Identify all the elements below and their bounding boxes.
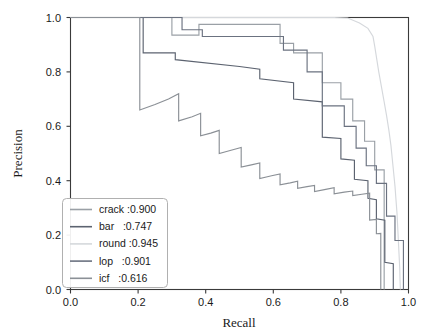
legend-label-lop: lop :0.901: [99, 255, 151, 267]
x-tick-label: 0.4: [198, 296, 213, 308]
legend-label-round: round :0.945: [99, 237, 158, 249]
x-tick-label: 0.6: [266, 296, 281, 308]
y-tick-label: 0.6: [46, 120, 61, 132]
y-tick-label: 0.4: [46, 175, 61, 187]
legend-label-icf: icf :0.616: [99, 272, 148, 284]
y-tick-label: 0.2: [46, 229, 61, 241]
x-tick-label: 0.8: [333, 296, 348, 308]
x-tick-label: 0.0: [63, 296, 78, 308]
legend: crack :0.900bar :0.747round :0.945lop :0…: [63, 199, 168, 288]
y-tick-label: 0.8: [46, 66, 61, 78]
y-axis-title: Precision: [10, 129, 25, 178]
x-tick-label: 0.2: [130, 296, 145, 308]
legend-label-crack: crack :0.900: [99, 203, 156, 215]
x-tick-label: 1.0: [401, 296, 416, 308]
y-tick-label: 1.0: [46, 12, 61, 24]
x-axis-title: Recall: [222, 315, 256, 330]
y-tick-label: 0.0: [46, 284, 61, 296]
legend-label-bar: bar :0.747: [99, 220, 152, 232]
precision-recall-chart: 0.0 0.2 0.4 0.6 0.8 1.0 0.0 0.2 0.4 0.6 …: [0, 0, 429, 336]
